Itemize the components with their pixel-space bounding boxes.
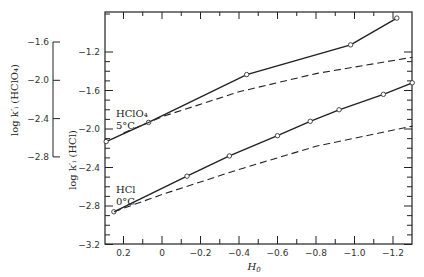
hcl-tick-label: −2.8 [78,201,100,211]
hclo4-series-label: HClO₄ [116,108,148,119]
plot-frame [105,12,412,244]
hclo4-tick-label: −2.0 [27,75,49,85]
data-point [395,16,399,20]
hclo4-tick-label: −1.6 [27,37,49,47]
x-axis-ticks: 0.20−0.2−0.4−0.6−0.8−1.0−1.2 [116,12,404,258]
x-tick-label: −0.2 [190,248,212,258]
data-point [275,134,279,138]
x-tick-label: −1.0 [344,248,366,258]
chart: 0.20−0.2−0.4−0.6−0.8−1.0−1.2 −1.2−1.6−2.… [0,0,424,277]
x-axis-title: H0 [246,261,261,274]
hcl-tick-label: −1.6 [78,86,100,96]
hcl-y-axis-title: log k′ᵢ (HCl) [67,130,78,190]
data-point [410,81,414,85]
hcl-tick-label: −2.4 [78,163,100,173]
hcl-series-label: HCl [116,184,136,195]
hclo4-y-axis-title: log k′ᵢ (HClO₄) [9,64,20,136]
hcl-tick-label: −1.2 [78,47,100,57]
data-point [337,108,341,112]
hcl-tick-label: −2.0 [78,124,100,134]
data-point [227,154,231,158]
x-tick-label: 0.2 [116,248,130,258]
hclo4-tick-label: −2.4 [27,114,49,124]
x-tick-label: −0.4 [228,248,250,258]
hclo4-tick-label: −2.8 [27,152,49,162]
hclo4-temp-label: 5°C [116,120,135,131]
hclo4-y-axis: −1.6−2.0−2.4−2.8 [27,37,60,162]
data-point [308,119,312,123]
data-point [185,174,189,178]
measured-curve [114,83,412,212]
calculated-curve [114,126,412,212]
data-point [381,92,385,96]
data-point [348,43,352,47]
series-layer [104,16,414,214]
x-tick-label: 0 [159,248,165,258]
x-tick-label: −0.6 [267,248,289,258]
hcl-temp-label: 0°C [116,196,135,207]
x-tick-label: −1.2 [382,248,404,258]
hcl-tick-label: −3.2 [78,240,100,250]
data-point [104,139,108,143]
x-tick-label: −0.8 [305,248,327,258]
data-point [245,72,249,76]
